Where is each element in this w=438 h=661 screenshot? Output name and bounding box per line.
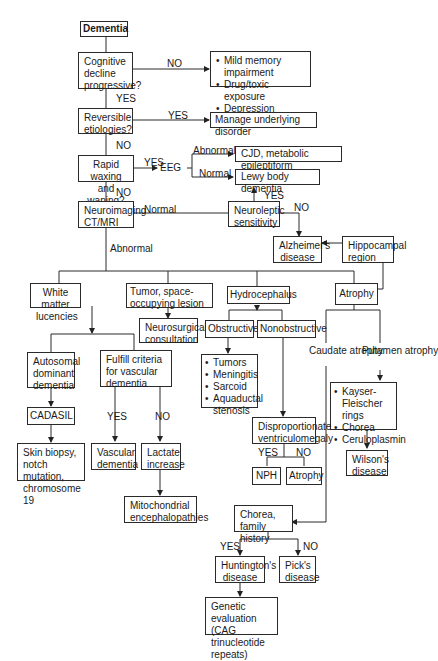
- edge-label-yes: YES: [107, 411, 127, 423]
- edge-label-no: NO: [303, 541, 318, 553]
- cjd-box: CJD, metabolic epileptiform: [235, 146, 342, 162]
- cadasil-box: CADASIL: [27, 407, 75, 425]
- lactate-label: Lactate increase: [147, 447, 185, 470]
- edge-label-no: NO: [167, 58, 182, 70]
- lewy-box: Lewy body dementia: [235, 169, 320, 185]
- hydrocephalus-box: Hydrocephalus: [227, 286, 290, 304]
- tumor-label: Tumor, space-occupying lesion: [130, 286, 204, 309]
- white-matter-label: White matter lucencies: [36, 287, 78, 322]
- dementia-box: Dementia: [80, 21, 128, 37]
- edge-label-no: NO: [155, 411, 170, 423]
- white-matter-box: White matter lucencies: [30, 283, 81, 308]
- genetic-label: Genetic evaluation (CAG trinucleotide re…: [211, 601, 265, 660]
- skin-box: Skin biopsy, notch mutation, chromosome …: [17, 443, 85, 481]
- edge-label-no: NO: [296, 447, 311, 459]
- list-item: Sarcoid: [205, 381, 254, 393]
- reversible-box: Reversible etiologies?: [78, 108, 133, 134]
- edge-label-yes: YES: [116, 93, 136, 105]
- edge-label-normal: Normal: [199, 168, 231, 180]
- reversible-label: Reversible etiologies?: [84, 112, 132, 135]
- nph-box: NPH: [252, 467, 281, 485]
- atrophy2-label: Atrophy: [289, 470, 323, 481]
- edge-label-yes: YES: [220, 541, 240, 553]
- neurosurgical-label: Neurosurgical consultation: [145, 322, 207, 345]
- cadasil-label: CADASIL: [30, 410, 73, 421]
- tumor-box: Tumor, space-occupying lesion: [126, 283, 213, 308]
- wilsons-label: Wilson's disease: [352, 454, 389, 477]
- neuroleptic-label: Neuroleptic sensitivity: [234, 205, 285, 228]
- neuroleptic-box: Neuroleptic sensitivity: [228, 201, 280, 227]
- mild-list: Mild memory impairment Drug/toxic exposu…: [216, 55, 305, 115]
- rapid-box: Rapid waxing and waning?: [78, 155, 134, 182]
- nonobstructive-box: Nonobstructive: [257, 320, 316, 338]
- nph-label: NPH: [256, 470, 277, 481]
- edge-label-yes: YES: [258, 447, 278, 459]
- fulfill-box: Fulfill criteria for vascular dementia: [100, 350, 172, 387]
- edge-label-yes: YES: [168, 110, 188, 122]
- putamen-label: Putamen atrophy: [362, 345, 438, 357]
- picks-box: Pick's disease: [279, 556, 316, 583]
- atrophy-label: Atrophy: [339, 288, 373, 299]
- obstructive-label: Obstructive: [208, 323, 259, 334]
- edge-label-abnormal: Abnormal: [110, 243, 153, 255]
- cognitive-decline-box: Cognitive decline progressive?: [78, 52, 133, 89]
- hippocampal-box: Hippocampal region: [342, 236, 394, 263]
- dementia-label: Dementia: [83, 23, 128, 34]
- picks-label: Pick's disease: [285, 560, 319, 583]
- list-item: Aquaductal stenosis: [205, 393, 254, 417]
- autosomal-box: Autosomal dominant dementia: [27, 352, 75, 388]
- huntington-box: Huntington's disease: [215, 556, 265, 583]
- chorea-box: Chorea, family history: [234, 505, 293, 532]
- list-item: Chorea: [334, 422, 393, 434]
- vascular-box: Vascular dementia: [91, 443, 136, 470]
- edge-label-no: NO: [116, 187, 131, 199]
- lactate-box: Lactate increase: [141, 443, 181, 470]
- vascular-label: Vascular dementia: [97, 447, 138, 470]
- alzheimers-box: Alzheimer's disease: [273, 236, 322, 263]
- putamen-list-box: Kayser-Fleischer rings Chorea Ceruloplas…: [330, 382, 397, 430]
- disproportionate-box: Disproportionate ventriculomegaly: [252, 417, 316, 444]
- list-item: Mild memory impairment: [216, 55, 305, 79]
- wilsons-box: Wilson's disease: [346, 450, 388, 476]
- atrophy-box: Atrophy: [335, 283, 378, 305]
- obstructive-box: Obstructive: [205, 320, 254, 338]
- mild-list-box: Mild memory impairment Drug/toxic exposu…: [210, 51, 311, 87]
- manage-box: Manage underlying disorder: [210, 112, 317, 128]
- obstructive-list: Tumors Meningitis Sarcoid Aquaductal ste…: [205, 357, 254, 417]
- edge-label-yes: YES: [144, 157, 164, 169]
- genetic-box: Genetic evaluation (CAG trinucleotide re…: [205, 597, 278, 635]
- mito-label: Mitochondrial encephalopathies: [130, 500, 208, 523]
- list-item: Drug/toxic exposure: [216, 79, 305, 103]
- edge-label-no: NO: [116, 140, 131, 152]
- cognitive-label: Cognitive decline progressive?: [84, 56, 141, 91]
- list-item: Meningitis: [205, 369, 254, 381]
- fulfill-label: Fulfill criteria for vascular dementia: [106, 354, 162, 389]
- obstructive-list-box: Tumors Meningitis Sarcoid Aquaductal ste…: [201, 354, 258, 408]
- putamen-list: Kayser-Fleischer rings Chorea Ceruloplas…: [334, 386, 393, 446]
- list-item: Kayser-Fleischer rings: [334, 386, 393, 422]
- edge-label-normal: Normal: [144, 204, 176, 216]
- list-item: Ceruloplasmin: [334, 434, 393, 446]
- nonobstructive-label: Nonobstructive: [260, 323, 327, 334]
- neuroimaging-box: Neuroimaging CT/MRI: [78, 201, 134, 228]
- atrophy2-box: Atrophy: [286, 467, 322, 485]
- disproportionate-label: Disproportionate ventriculomegaly: [258, 421, 333, 444]
- edge-label-no: NO: [294, 202, 309, 214]
- edge-label-abnormal: Abnormal: [193, 145, 236, 157]
- neurosurgical-box: Neurosurgical consultation: [139, 318, 198, 343]
- mito-box: Mitochondrial encephalopathies: [124, 496, 197, 523]
- list-item: Tumors: [205, 357, 254, 369]
- edge-label-yes: YES: [264, 190, 284, 202]
- autosomal-label: Autosomal dominant dementia: [33, 356, 80, 391]
- hydrocephalus-label: Hydrocephalus: [230, 289, 297, 300]
